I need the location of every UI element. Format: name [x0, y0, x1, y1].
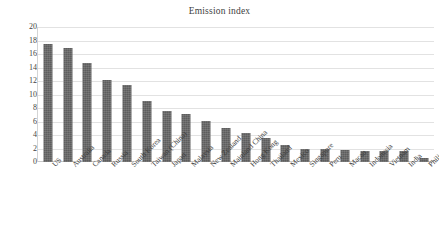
chart-title: Emission index [0, 6, 439, 16]
y-axis-tick: 14 [20, 64, 37, 72]
y-axis-tick: 18 [20, 37, 37, 45]
bar[interactable] [43, 44, 52, 162]
y-axis-tick: 0 [20, 158, 37, 166]
y-axis-tick: 12 [20, 77, 37, 85]
y-axis-tick: 20 [20, 23, 37, 31]
x-axis-label: Russia [110, 163, 116, 169]
y-axis: 20181614121086420 [20, 27, 37, 162]
x-axis-labels: USAustraliaCanadaRussiaSouth KoreaTaiwan… [37, 163, 433, 227]
x-axis-label: Thailand [269, 163, 275, 169]
x-axis-label: Vietnam [388, 163, 394, 169]
bar-slot [375, 27, 395, 162]
emission-index-bar-chart: Emission index 20181614121086420 USAustr… [0, 0, 439, 230]
y-axis-tick: 16 [20, 50, 37, 58]
bar-slot [335, 27, 355, 162]
x-axis-label: Mexico [289, 163, 295, 169]
bar-slot [394, 27, 414, 162]
x-axis-label: New Zealand [209, 163, 215, 169]
y-axis-tick: 6 [20, 118, 37, 126]
y-axis-tick: 4 [20, 131, 37, 139]
bar-slot [117, 27, 137, 162]
bar-slot [196, 27, 216, 162]
bar-slot [295, 27, 315, 162]
bar-slot [355, 27, 375, 162]
x-axis-label: Mainland China [229, 163, 235, 169]
x-axis-label: Macau [348, 163, 354, 169]
x-axis-label: Australia [71, 163, 77, 169]
bar-slot [78, 27, 98, 162]
x-axis-label: Malaysia [190, 163, 196, 169]
x-axis-label: Hong Kong [249, 163, 255, 169]
x-axis-label: Taiwan (China) [150, 163, 156, 169]
x-axis-label: Japan [170, 163, 176, 169]
x-axis-label: US [51, 163, 57, 169]
y-axis-tick: 8 [20, 104, 37, 112]
bar-slot [38, 27, 58, 162]
x-axis-label: Singapore [308, 163, 314, 169]
plot-wrapper: 20181614121086420 [20, 27, 433, 162]
bar-slot [315, 27, 335, 162]
bar-slot [58, 27, 78, 162]
x-axis-label: Philippines [427, 163, 433, 169]
x-axis-label: India [407, 163, 413, 169]
bar-slot [97, 27, 117, 162]
x-axis-label: South Korea [130, 163, 136, 169]
x-axis-label: Indonesia [368, 163, 374, 169]
y-axis-tick: 2 [20, 145, 37, 153]
bar-slot [276, 27, 296, 162]
bar-slot [414, 27, 434, 162]
x-axis-label: Peru [328, 163, 334, 169]
x-axis-label: Canada [91, 163, 97, 169]
y-axis-tick: 10 [20, 91, 37, 99]
bar[interactable] [63, 48, 72, 162]
